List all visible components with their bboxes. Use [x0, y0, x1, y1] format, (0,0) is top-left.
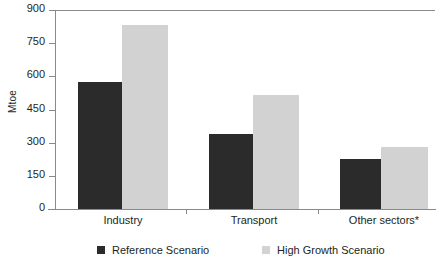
- legend-item-high-growth-scenario: High Growth Scenario: [262, 244, 385, 256]
- legend-label-high-growth-scenario: High Growth Scenario: [277, 244, 385, 256]
- bar-transport-reference: [209, 134, 253, 209]
- legend-swatch-icon-high-growth: [262, 246, 270, 254]
- x-axis-baseline: [48, 209, 436, 210]
- x-axis-label-other-sectors: Other sectors*: [334, 214, 434, 226]
- legend-item-reference-scenario: Reference Scenario: [97, 244, 209, 256]
- bar-transport-high-growth: [253, 95, 299, 209]
- legend-label-reference-scenario: Reference Scenario: [112, 244, 209, 256]
- bar-other-sectors-reference: [340, 159, 381, 209]
- bar-industry-reference: [78, 82, 122, 209]
- bar-other-sectors-high-growth: [381, 147, 428, 209]
- x-tick-separator-2: [318, 209, 319, 214]
- x-tick-separator-1: [186, 209, 187, 214]
- bar-industry-high-growth: [122, 25, 168, 209]
- x-axis-label-industry: Industry: [73, 214, 173, 226]
- bar-chart-figure: Mtoe 900 750 600 450 300 150 0: [0, 0, 446, 267]
- legend-swatch-icon-reference: [97, 246, 105, 254]
- legend: Reference Scenario High Growth Scenario: [0, 244, 446, 264]
- x-axis-label-transport: Transport: [204, 214, 304, 226]
- bars-layer: [0, 0, 446, 209]
